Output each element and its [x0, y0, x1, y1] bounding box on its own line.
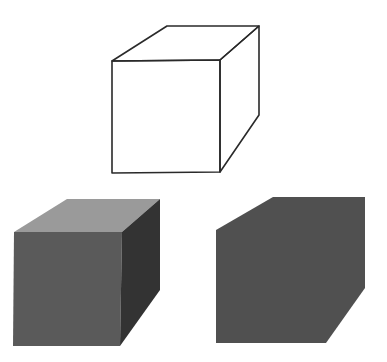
wireframe-front-face [112, 60, 220, 173]
wireframe-cube [112, 26, 259, 173]
wireframe-top-face [112, 26, 259, 61]
shaded-cube [13, 199, 160, 346]
shaded-front-face [13, 232, 122, 346]
cube-diagram [0, 0, 387, 362]
wireframe-side-face [220, 26, 259, 172]
silhouette-cube [216, 197, 365, 343]
silhouette-shape [216, 197, 365, 343]
